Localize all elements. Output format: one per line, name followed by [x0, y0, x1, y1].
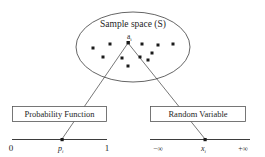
sample-point: [109, 43, 112, 46]
sample-point: [151, 52, 154, 55]
sample-point: [141, 43, 144, 46]
sample-point: [157, 44, 160, 47]
random-variable-axis-left-label: −∞: [153, 144, 163, 153]
sample-point: [147, 59, 150, 62]
probability-axis: 0 1 pi: [9, 138, 110, 154]
random-variable-axis-tick-label: xi: [200, 144, 207, 154]
mapping-lines: [62, 43, 205, 139]
random-variable-axis-marker: [204, 138, 207, 141]
sample-space-diagram: Sample space (S) ai Probability Function: [0, 0, 265, 157]
random-variable-box[interactable]: Random Variable: [151, 107, 246, 122]
sample-point: [127, 65, 130, 68]
sample-point: [121, 57, 124, 60]
random-variable-axis-tick-subscript: i: [205, 149, 207, 154]
sample-space-title: Sample space (S): [100, 19, 166, 30]
sample-point: [92, 47, 95, 50]
random-variable-box-label: Random Variable: [168, 109, 227, 119]
probability-function-box-label: Probability Function: [24, 109, 95, 119]
diagram-canvas: Sample space (S) ai Probability Function: [0, 0, 265, 157]
probability-axis-right-label: 1: [105, 143, 110, 153]
random-variable-axis: −∞ +∞ xi: [150, 138, 250, 154]
outcome-point-label-subscript: i: [130, 37, 132, 42]
probability-axis-left-label: 0: [9, 143, 14, 153]
probability-axis-tick-label: pi: [57, 144, 64, 154]
probability-function-box[interactable]: Probability Function: [13, 107, 107, 122]
sample-point: [172, 43, 175, 46]
probability-axis-marker: [61, 138, 64, 141]
outcome-point-label: ai: [127, 32, 132, 42]
sample-point: [139, 56, 142, 59]
mapping-line-to-probability: [62, 43, 128, 139]
probability-axis-tick-subscript: i: [62, 149, 64, 154]
sample-point: [102, 56, 105, 59]
random-variable-axis-right-label: +∞: [238, 144, 248, 153]
sample-points: [92, 43, 175, 68]
